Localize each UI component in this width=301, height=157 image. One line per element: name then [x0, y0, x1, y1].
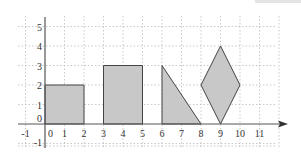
- x-tick-label: 2: [82, 128, 87, 139]
- y-tick-label: -1: [34, 137, 42, 148]
- rectangle-2: [104, 66, 143, 125]
- y-tick-label: 2: [37, 80, 42, 91]
- x-tick-label: 3: [101, 128, 106, 139]
- y-tick-label: 1: [37, 100, 42, 111]
- x-tick-label: 9: [218, 128, 223, 139]
- y-tick-label: 5: [37, 22, 42, 33]
- right-triangle: [162, 66, 201, 125]
- x-tick-label: 6: [160, 128, 165, 139]
- y-tick-label: 3: [37, 61, 42, 72]
- x-tick-label: 8: [199, 128, 204, 139]
- axes: [18, 17, 288, 148]
- coordinate-plane: -101234567891011543210-1: [0, 0, 301, 157]
- x-tick-label: 0: [48, 128, 53, 139]
- shapes: [45, 46, 240, 124]
- x-tick-label: -1: [21, 128, 29, 139]
- x-tick-label: 11: [255, 128, 265, 139]
- x-tick-label: 4: [121, 128, 126, 139]
- rectangle-1: [45, 85, 84, 124]
- rhombus: [201, 46, 240, 124]
- y-tick-label: 0: [37, 113, 42, 124]
- x-tick-label: 7: [179, 128, 184, 139]
- x-tick-label: 5: [140, 128, 145, 139]
- x-tick-label: 10: [235, 128, 245, 139]
- x-tick-label: 1: [62, 128, 67, 139]
- y-tick-label: 4: [37, 41, 42, 52]
